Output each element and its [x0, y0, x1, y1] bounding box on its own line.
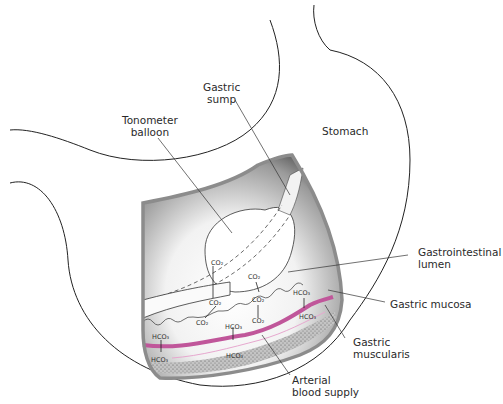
- label-line: blood supply: [292, 386, 359, 398]
- label-arterial-blood-supply: Arterial blood supply: [292, 374, 359, 398]
- label-line: lumen: [418, 258, 501, 270]
- co2-label: CO₂: [209, 300, 221, 307]
- co2-label: CO₂: [248, 274, 260, 281]
- label-line: Tonometer: [122, 114, 178, 126]
- label-line: sump: [203, 93, 240, 105]
- label-gastric-mucosa: Gastric mucosa: [390, 298, 472, 310]
- label-line: Gastrointestinal: [418, 246, 501, 258]
- label-line: balloon: [122, 126, 178, 138]
- hco3-label: HCO₃: [151, 357, 168, 364]
- co2-label: CO₂: [211, 260, 223, 267]
- label-gastric-sump: Gastric sump: [203, 81, 240, 105]
- cutaway-window: [143, 155, 342, 378]
- co2-label: CO₂: [252, 318, 264, 325]
- co2-label: CO₂: [252, 297, 264, 304]
- label-line: muscularis: [353, 348, 410, 360]
- label-stomach: Stomach: [322, 125, 368, 137]
- label-line: Gastric: [203, 81, 240, 93]
- hco3-label: HCO₃: [152, 334, 169, 341]
- co2-label: CO₂: [196, 320, 208, 327]
- stomach-diagram: [0, 0, 503, 404]
- label-tonometer-balloon: Tonometer balloon: [122, 114, 178, 138]
- hco3-label: HCO₃: [299, 314, 316, 321]
- label-gastric-muscularis: Gastric muscularis: [353, 336, 410, 360]
- label-line: Gastric: [353, 336, 410, 348]
- hco3-label: HCO₃: [225, 324, 242, 331]
- hco3-label: HCO₃: [226, 353, 243, 360]
- label-gi-lumen: Gastrointestinal lumen: [418, 246, 501, 270]
- label-line: Arterial: [292, 374, 359, 386]
- hco3-label: HCO₃: [293, 290, 310, 297]
